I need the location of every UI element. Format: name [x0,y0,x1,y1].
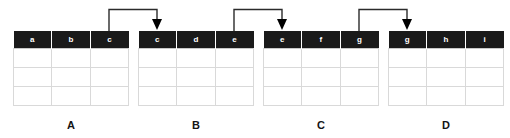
table-cell [177,87,216,106]
connector-b-e-to-c-e [234,10,287,32]
table-caption-a: A [13,119,129,131]
column-header-d-0: g [389,31,427,49]
table-c: e f g [263,31,379,106]
table-row [14,87,129,106]
table-cell [52,87,91,106]
column-header-b-0: c [139,31,177,49]
table-caption-d: D [388,119,504,131]
table-cell [465,68,503,87]
table-cell [215,87,253,106]
table-cell [340,87,378,106]
table-cell [177,49,216,68]
table-b-header: c d e [139,31,254,49]
column-header-a-2: c [90,31,128,49]
arrowhead-icon [152,19,162,30]
table-cell [215,49,253,68]
table-cell [90,49,128,68]
table-cell [139,49,177,68]
table-cell [427,49,466,68]
table-header-row: g h i [389,31,504,49]
column-header-a-1: b [52,31,91,49]
table-cell [340,49,378,68]
column-header-c-0: e [264,31,302,49]
column-header-c-1: f [302,31,341,49]
connector-c-g-to-d-g [359,10,412,32]
table-cell [215,68,253,87]
table-row [264,68,379,87]
table-cell [90,68,128,87]
table-row [139,68,254,87]
table-cell [177,68,216,87]
table-cell [264,49,302,68]
arrowhead-icon [402,19,412,30]
table-cell [389,49,427,68]
table-cell [389,68,427,87]
table-cell [302,49,341,68]
table-header-row: c d e [139,31,254,49]
arrowhead-icon [277,19,287,30]
table-group-d: g h i [388,31,504,106]
column-header-d-2: i [465,31,503,49]
table-row [139,87,254,106]
table-cell [264,87,302,106]
table-cell [14,87,52,106]
table-cell [389,87,427,106]
table-cell [139,68,177,87]
table-cell [139,87,177,106]
table-a: a b c [13,31,129,106]
table-d-header: g h i [389,31,504,49]
table-c-header: e f g [264,31,379,49]
table-row [14,49,129,68]
table-row [389,87,504,106]
table-group-c: e f g [263,31,379,106]
table-cell [52,49,91,68]
table-cell [52,68,91,87]
table-row [389,68,504,87]
table-cell [340,68,378,87]
column-header-d-1: h [427,31,466,49]
table-row [139,49,254,68]
table-a-header: a b c [14,31,129,49]
table-caption-c: C [263,119,379,131]
table-cell [302,87,341,106]
table-b: c d e [138,31,254,106]
column-header-b-2: e [215,31,253,49]
table-a-body [14,49,129,106]
column-header-b-1: d [177,31,216,49]
table-d: g h i [388,31,504,106]
join-chain-diagram: a b c [0,0,510,138]
table-header-row: a b c [14,31,129,49]
table-row [264,49,379,68]
table-row [264,87,379,106]
table-cell [90,87,128,106]
table-b-body [139,49,254,106]
table-row [14,68,129,87]
table-c-body [264,49,379,106]
table-cell [302,68,341,87]
table-cell [465,49,503,68]
table-cell [264,68,302,87]
table-cell [14,68,52,87]
column-header-c-2: g [340,31,378,49]
table-cell [427,68,466,87]
table-cell [14,49,52,68]
table-cell [427,87,466,106]
table-caption-b: B [138,119,254,131]
column-header-a-0: a [14,31,52,49]
table-group-b: c d e [138,31,254,106]
table-group-a: a b c [13,31,129,106]
table-header-row: e f g [264,31,379,49]
table-row [389,49,504,68]
table-cell [465,87,503,106]
table-d-body [389,49,504,106]
connector-a-c-to-b-c [109,10,162,32]
